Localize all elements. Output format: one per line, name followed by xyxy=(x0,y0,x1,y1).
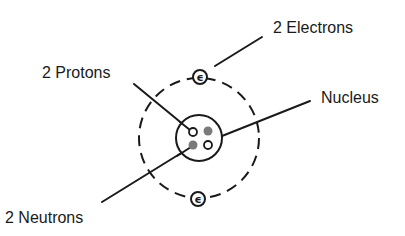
helium-atom-diagram: ϵ ϵ 2 Electrons 2 Protons Nucleus 2 Neut… xyxy=(0,0,405,236)
electron-symbol: ϵ xyxy=(194,193,201,206)
electron-bottom: ϵ xyxy=(191,192,205,206)
proton xyxy=(189,128,197,136)
neutron xyxy=(189,141,198,150)
nucleus-leader-line xyxy=(222,101,310,136)
protons-label: 2 Protons xyxy=(42,64,110,81)
neutrons-label: 2 Neutrons xyxy=(5,209,83,226)
electrons-label: 2 Electrons xyxy=(273,19,353,36)
electron-top: ϵ xyxy=(193,70,207,84)
neutron xyxy=(204,127,213,136)
nucleus xyxy=(176,115,222,161)
nucleus-label: Nucleus xyxy=(321,89,379,106)
proton xyxy=(204,141,212,149)
electron-symbol: ϵ xyxy=(196,71,203,84)
electrons-leader-line xyxy=(215,37,262,66)
